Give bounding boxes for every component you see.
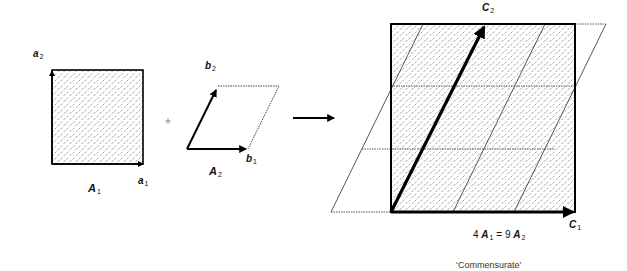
label-lattice-A1: A1	[88, 183, 101, 195]
label-c2: C2	[482, 3, 494, 14]
label-c1: C1	[569, 220, 581, 231]
caption-commensurate: ‘Commensurate’	[456, 261, 522, 270]
label-b1: b1	[246, 154, 257, 165]
diagram-canvas	[0, 0, 627, 271]
commensurate-relation: 4 A1 = 9 A2	[473, 230, 525, 241]
vector-b2-arrow	[187, 90, 216, 149]
label-lattice-A2: A2	[209, 166, 222, 178]
label-a2: a2	[33, 49, 43, 60]
lattice-a2-cell	[187, 86, 279, 149]
label-a1: a1	[138, 176, 148, 187]
lattice-a1-cell	[52, 70, 143, 164]
supercell	[331, 24, 606, 212]
plus-operator	[165, 118, 171, 124]
label-b2: b2	[205, 61, 216, 72]
